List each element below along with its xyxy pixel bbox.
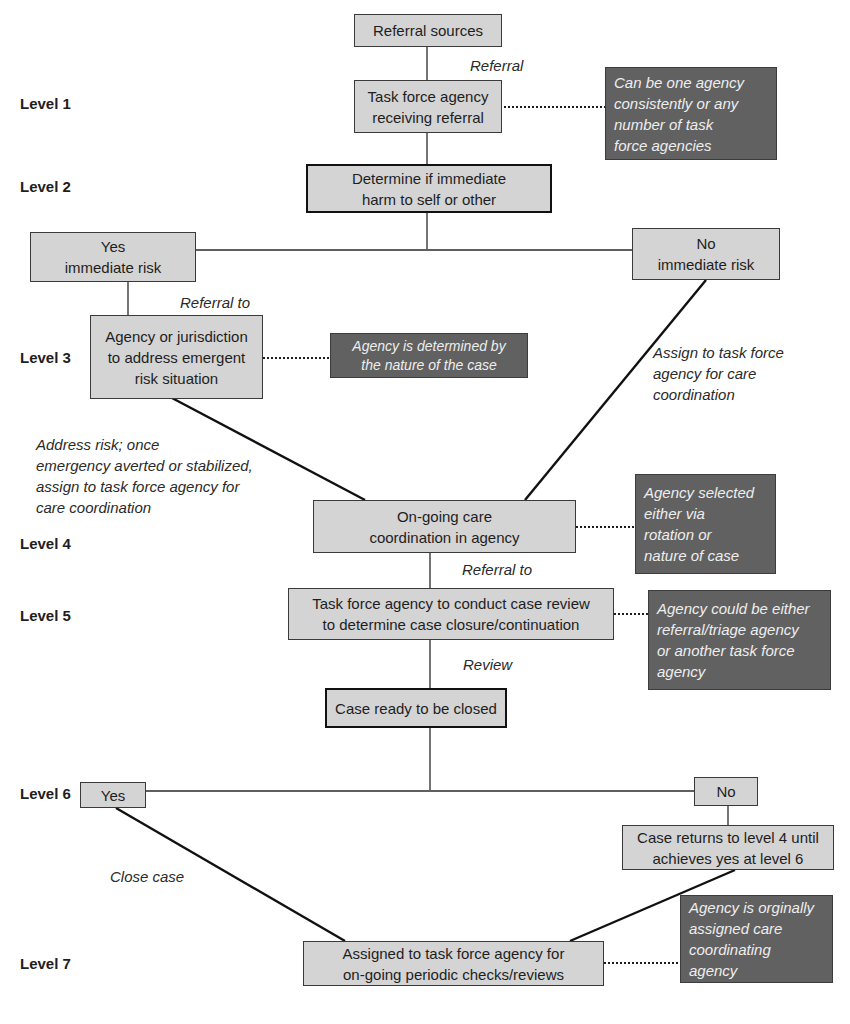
referral-sources-node: Referral sources [354,14,502,47]
case-ready-node: Case ready to be closed [325,688,507,728]
assigned-periodic-node: Assigned to task force agency for on-goi… [303,941,604,986]
edge-label-referral-to-level3: Referral to [180,292,250,313]
case-review-node: Task force agency to conduct case review… [288,588,614,640]
ongoing-care-node: On-going care coordination in agency [313,500,576,553]
yes-immediate-risk-node: Yes immediate risk [30,232,196,282]
yes-level6-node: Yes [80,782,146,808]
determine-harm-node: Determine if immediate harm to self or o… [306,164,552,213]
edge-label-review: Review [463,654,512,675]
task-force-receiving-node: Task force agency receiving referral [354,80,502,133]
agency-jurisdiction-node: Agency or jurisdiction to address emerge… [90,315,263,399]
no-level6-node: No [694,777,758,806]
note-level-4: Agency selected either via rotation or n… [635,474,776,574]
level-7-label: Level 7 [20,955,71,972]
level-2-label: Level 2 [20,178,71,195]
note-level-7: Agency is orginally assigned care coordi… [680,895,833,983]
level-1-label: Level 1 [20,95,71,112]
case-returns-node: Case returns to level 4 until achieves y… [622,825,834,870]
no-immediate-risk-node: No immediate risk [632,228,780,280]
level-3-label: Level 3 [20,349,71,366]
note-level-1: Can be one agency consistently or any nu… [605,67,777,160]
edge-label-address-risk: Address risk; once emergency averted or … [36,434,253,518]
edge-label-referral-to-level5: Referral to [462,559,532,580]
level-6-label: Level 6 [20,785,71,802]
edge-label-close-case: Close case [110,866,184,887]
level-5-label: Level 5 [20,607,71,624]
edge-label-assign-care: Assign to task force agency for care coo… [653,342,784,405]
note-level-3: Agency is determined by the nature of th… [330,333,528,378]
note-level-5: Agency could be either referral/triage a… [648,590,831,690]
level-4-label: Level 4 [20,535,71,552]
edge-label-referral: Referral [470,55,523,76]
